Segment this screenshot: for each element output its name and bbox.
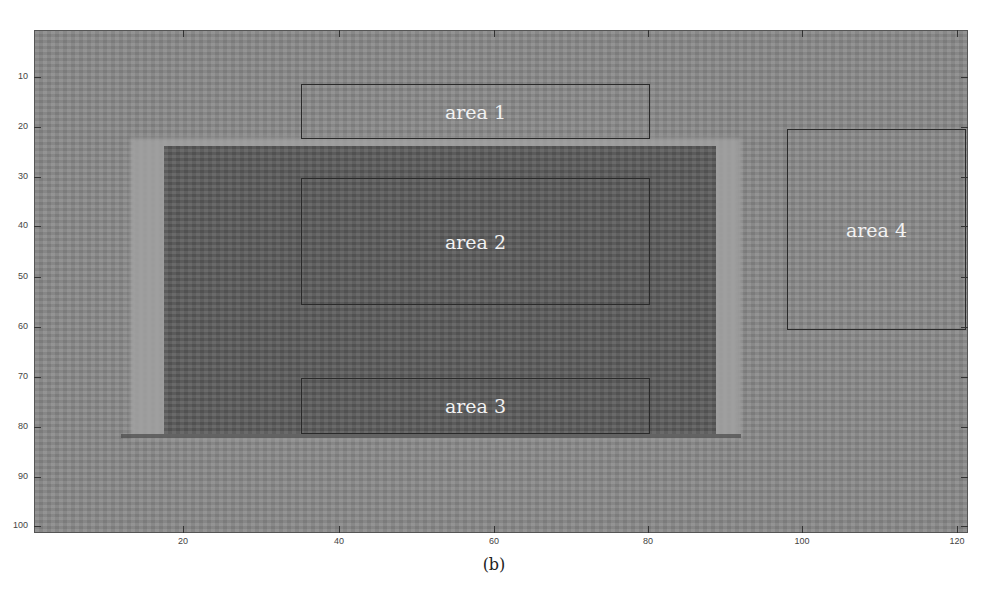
x-tick-label: 80 <box>633 536 663 546</box>
x-tick <box>802 526 803 533</box>
y-tick-label: 70 <box>0 371 28 381</box>
area-4-box: area 4 <box>787 129 966 330</box>
area-2-label: area 2 <box>445 231 506 253</box>
y-tick <box>34 177 41 178</box>
x-tick <box>183 526 184 533</box>
y-tick-label: 10 <box>0 71 28 81</box>
x-tick <box>648 526 649 533</box>
area-3-box: area 3 <box>301 378 650 434</box>
x-tick-label: 20 <box>168 536 198 546</box>
y-tick-right <box>961 427 968 428</box>
x-tick <box>339 526 340 533</box>
x-tick-top <box>957 30 958 37</box>
area-1-box: area 1 <box>301 84 650 139</box>
area-1-label: area 1 <box>445 101 506 123</box>
y-tick <box>34 77 41 78</box>
y-tick-right <box>961 377 968 378</box>
x-tick <box>957 526 958 533</box>
y-tick-label: 20 <box>0 121 28 131</box>
y-tick-label: 40 <box>0 220 28 230</box>
y-tick-label: 60 <box>0 321 28 331</box>
y-tick-right <box>961 526 968 527</box>
y-tick-right <box>961 477 968 478</box>
y-tick <box>34 226 41 227</box>
y-tick-label: 90 <box>0 471 28 481</box>
dark-edge-line <box>121 434 741 438</box>
x-tick-top <box>802 30 803 37</box>
y-tick <box>34 427 41 428</box>
y-tick-right <box>961 127 968 128</box>
x-tick-top <box>648 30 649 37</box>
heatmap-plot: area 1 area 2 area 3 area 4 <box>34 30 968 533</box>
y-tick <box>34 477 41 478</box>
x-tick <box>494 526 495 533</box>
y-tick <box>34 377 41 378</box>
y-tick <box>34 127 41 128</box>
y-tick <box>34 327 41 328</box>
x-tick-top <box>494 30 495 37</box>
y-tick-right <box>961 226 968 227</box>
x-tick-label: 120 <box>942 536 972 546</box>
x-tick-top <box>183 30 184 37</box>
x-tick-top <box>339 30 340 37</box>
figure-caption: (b) <box>464 555 524 574</box>
y-tick-right <box>961 177 968 178</box>
area-4-label: area 4 <box>846 219 907 241</box>
y-tick-label: 30 <box>0 171 28 181</box>
y-tick-right <box>961 77 968 78</box>
y-tick <box>34 277 41 278</box>
x-tick-label: 100 <box>787 536 817 546</box>
y-tick-label: 50 <box>0 271 28 281</box>
y-tick-right <box>961 277 968 278</box>
y-tick <box>34 526 41 527</box>
y-tick-label: 80 <box>0 421 28 431</box>
x-tick-label: 40 <box>324 536 354 546</box>
area-2-box: area 2 <box>301 178 650 305</box>
y-tick-label: 100 <box>0 520 28 530</box>
y-tick-right <box>961 327 968 328</box>
x-tick-label: 60 <box>479 536 509 546</box>
area-3-label: area 3 <box>445 395 506 417</box>
